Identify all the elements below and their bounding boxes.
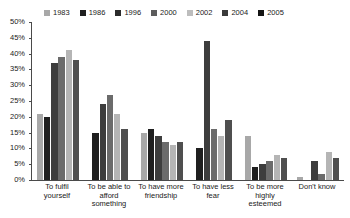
bar-1996: [100, 104, 107, 180]
bar-group: [32, 22, 84, 180]
bar-2004: [225, 120, 232, 180]
legend-label: 1986: [89, 9, 106, 17]
bar-group: [84, 22, 136, 180]
x-axis-category-label: To be more highly esteemed: [239, 183, 291, 217]
bar-2000: [58, 57, 65, 180]
bar-2000: [211, 129, 218, 180]
bar-1983: [297, 177, 304, 180]
legend-swatch-icon: [222, 10, 228, 16]
x-axis-category-label: To be able to afford something: [83, 183, 135, 217]
legend-item-2002: 2002: [187, 9, 213, 17]
y-axis-tick-label: 15%: [10, 129, 25, 137]
bar-2004: [73, 60, 80, 180]
bar-chart: 1983198619962000200220042005 50%45%40%35…: [0, 0, 350, 218]
y-axis-tick-label: 5%: [14, 160, 25, 168]
y-axis-tick-label: 45%: [10, 34, 25, 42]
legend-label: 2005: [267, 9, 284, 17]
x-axis-category-label: To fulfil yourself: [31, 183, 83, 217]
legend-swatch-icon: [187, 10, 193, 16]
bar-2002: [326, 152, 333, 180]
bar-2002: [114, 114, 121, 180]
y-axis-tick-label: 25%: [10, 97, 25, 105]
x-axis-labels: To fulfil yourselfTo be able to afford s…: [31, 183, 343, 217]
chart-legend: 1983198619962000200220042005: [44, 7, 344, 19]
bar-2000: [266, 161, 273, 180]
bar-1986: [92, 133, 99, 180]
bar-1983: [141, 133, 148, 180]
y-axis-tick-label: 50%: [10, 18, 25, 26]
bar-1983: [245, 136, 252, 180]
bar-1986: [44, 117, 51, 180]
legend-label: 2004: [231, 9, 248, 17]
bar-2004: [281, 158, 288, 180]
legend-swatch-icon: [115, 10, 121, 16]
legend-item-2005: 2005: [258, 9, 284, 17]
bar-2002: [170, 145, 177, 180]
x-axis-category-label: Don't know: [291, 183, 343, 217]
bar-1986: [196, 148, 203, 180]
bar-group: [188, 22, 240, 180]
legend-swatch-icon: [258, 10, 264, 16]
bar-2004: [333, 158, 340, 180]
bar-1996: [51, 63, 58, 180]
legend-swatch-icon: [44, 10, 50, 16]
legend-item-1983: 1983: [44, 9, 70, 17]
y-axis-tick-label: 20%: [10, 113, 25, 121]
bar-1996: [259, 164, 266, 180]
legend-swatch-icon: [80, 10, 86, 16]
bar-2002: [218, 136, 225, 180]
bar-1996: [155, 136, 162, 180]
legend-item-1996: 1996: [115, 9, 141, 17]
y-axis-tick-label: 35%: [10, 65, 25, 73]
x-axis-category-label: To have less fear: [187, 183, 239, 217]
bar-2000: [162, 142, 169, 180]
legend-label: 1996: [124, 9, 141, 17]
bar-1986: [148, 129, 155, 180]
bar-2004: [121, 129, 128, 180]
bar-group: [292, 22, 344, 180]
legend-item-1986: 1986: [80, 9, 106, 17]
x-axis-category-label: To have more friendship: [135, 183, 187, 217]
y-axis-tick-label: 30%: [10, 81, 25, 89]
bar-2004: [177, 142, 184, 180]
bar-2000: [107, 95, 114, 180]
legend-swatch-icon: [151, 10, 157, 16]
bar-2002: [274, 155, 281, 180]
bar-1996: [311, 161, 318, 180]
bar-group: [240, 22, 292, 180]
bar-groups: [32, 22, 344, 180]
legend-item-2000: 2000: [151, 9, 177, 17]
y-axis-tick-label: 40%: [10, 50, 25, 58]
bar-1986: [252, 167, 259, 180]
legend-label: 2000: [160, 9, 177, 17]
bar-2000: [318, 174, 325, 180]
bar-1983: [37, 114, 44, 180]
legend-label: 1983: [53, 9, 70, 17]
y-axis: 50%45%40%35%30%25%20%15%10%5%0%: [0, 22, 29, 180]
y-axis-tick-label: 0%: [14, 176, 25, 184]
bar-group: [136, 22, 188, 180]
bar-1996: [204, 41, 211, 180]
bar-2002: [66, 50, 73, 180]
legend-label: 2002: [196, 9, 213, 17]
legend-item-2004: 2004: [222, 9, 248, 17]
y-axis-tick-label: 10%: [10, 144, 25, 152]
plot-area: [31, 22, 344, 181]
